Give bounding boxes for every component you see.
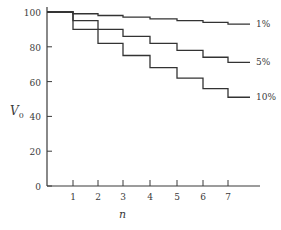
x-tick-label: 3 (120, 192, 126, 202)
series-label-10pct: 10% (256, 92, 276, 102)
x-axis-label: n (119, 208, 126, 221)
y-tick-label: 80 (30, 43, 42, 53)
x-tick-label: 6 (200, 192, 206, 202)
series-labels: 1%5%10% (256, 19, 276, 102)
series-label-5pct: 5% (256, 57, 271, 67)
y-tick-label: 20 (30, 147, 42, 157)
y-tick-label: 100 (24, 8, 41, 18)
series-group (47, 12, 250, 97)
x-tick-label: 4 (147, 192, 153, 202)
series-line-10pct (47, 12, 250, 97)
chart-canvas: 0204060801001234567 1%5%10% n V0 (0, 0, 281, 230)
y-tick-label: 60 (30, 78, 42, 88)
y-axis-label: V0 (10, 104, 24, 120)
series-line-1pct (47, 12, 250, 24)
x-tick-label: 5 (174, 192, 180, 202)
x-tick-label: 7 (225, 192, 231, 202)
series-label-1pct: 1% (256, 19, 271, 29)
x-tick-label: 1 (70, 192, 76, 202)
y-tick-label: 0 (35, 182, 41, 192)
y-tick-label: 40 (30, 112, 42, 122)
step-chart: 0204060801001234567 1%5%10% n V0 (0, 0, 281, 230)
x-tick-label: 2 (95, 192, 101, 202)
